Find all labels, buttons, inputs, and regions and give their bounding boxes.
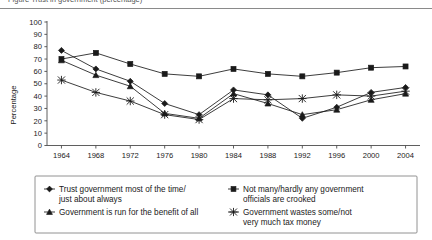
marker-cross	[195, 115, 203, 123]
marker-diamond	[47, 186, 53, 192]
marker-square	[403, 64, 408, 69]
marker-square	[231, 66, 236, 71]
marker-cross	[367, 92, 375, 100]
marker-cross	[92, 88, 100, 96]
x-tick-label: 1964	[53, 151, 70, 160]
marker-diamond	[93, 66, 99, 72]
marker-square	[369, 65, 374, 70]
y-tick-label: 60	[34, 67, 42, 76]
series-line	[61, 53, 405, 76]
legend-item-1[interactable]: Trust government most of the time/just a…	[44, 185, 186, 204]
marker-cross	[333, 91, 341, 99]
y-tick-label: 70	[34, 55, 42, 64]
marker-triangle	[127, 83, 133, 88]
marker-square	[128, 61, 133, 66]
legend-item-2[interactable]: Not many/hardly any governmentofficials …	[228, 185, 364, 204]
marker-triangle	[93, 72, 99, 77]
x-tick-label: 1976	[156, 151, 173, 160]
x-tick-label: 1968	[87, 151, 104, 160]
x-axis: 1964196819721976198019841988199219962000…	[47, 146, 420, 161]
legend-label-line2: just about always	[58, 195, 122, 204]
marker-square	[265, 71, 270, 76]
marker-cross	[229, 94, 237, 102]
line-chart: Percentage 0102030405060708090100 196419…	[0, 0, 432, 240]
legend-label: Government wastes some/not	[243, 208, 352, 217]
marker-cross	[57, 76, 65, 84]
marker-square	[300, 74, 305, 79]
marker-square	[93, 50, 98, 55]
marker-cross	[126, 97, 134, 105]
legend-item-4[interactable]: Government wastes some/notvery much tax …	[228, 208, 352, 227]
marker-cross	[160, 110, 168, 118]
caption-divider	[0, 8, 432, 9]
legend-label: Not many/hardly any government	[243, 185, 364, 194]
x-tick-label: 2000	[363, 151, 380, 160]
y-tick-label: 100	[29, 18, 42, 27]
marker-cross	[229, 208, 237, 216]
x-tick-label: 1972	[122, 151, 139, 160]
figure-container: Figure Trust in government (percentage) …	[0, 0, 432, 240]
y-tick-label: 90	[34, 30, 42, 39]
legend-label-line2: officials are crooked	[243, 195, 316, 204]
series-1	[58, 47, 408, 121]
marker-cross	[264, 96, 272, 104]
x-tick-label: 1996	[328, 151, 345, 160]
marker-cross	[298, 94, 306, 102]
y-axis: 0102030405060708090100	[29, 18, 47, 151]
x-tick-label: 1992	[294, 151, 311, 160]
marker-square	[334, 70, 339, 75]
x-tick-label: 1988	[259, 151, 276, 160]
y-tick-label: 30	[34, 104, 42, 113]
marker-square	[162, 71, 167, 76]
x-tick-label: 1980	[191, 151, 208, 160]
marker-square	[197, 74, 202, 79]
marker-diamond	[58, 47, 64, 53]
legend-label: Trust government most of the time/	[59, 185, 186, 194]
marker-cross	[401, 87, 409, 95]
series-4	[57, 76, 409, 124]
y-tick-label: 0	[38, 141, 42, 150]
legend-label-line2: very much tax money	[243, 218, 322, 227]
marker-diamond	[162, 101, 168, 107]
legend-label: Government is run for the benefit of all	[59, 208, 198, 217]
y-tick-label: 40	[34, 92, 42, 101]
x-tick-label: 2004	[397, 151, 414, 160]
legend-item-3[interactable]: Government is run for the benefit of all	[44, 208, 198, 217]
y-axis-title: Percentage	[9, 86, 18, 125]
x-tick-label: 1984	[225, 151, 242, 160]
figure-caption-strip: Figure Trust in government (percentage)	[0, 0, 432, 9]
legend: Trust government most of the time/just a…	[44, 185, 364, 227]
series-line	[61, 50, 405, 118]
figure-caption-text: Figure Trust in government (percentage)	[8, 0, 142, 4]
y-tick-label: 20	[34, 117, 42, 126]
marker-square	[231, 187, 236, 192]
y-tick-label: 10	[34, 129, 42, 138]
y-tick-label: 50	[34, 79, 42, 88]
y-tick-label: 80	[34, 42, 42, 51]
series-layer	[57, 47, 409, 123]
